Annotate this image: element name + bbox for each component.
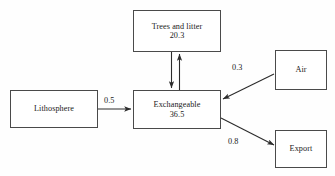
node-exchangeable: Exchangeable 36.5	[133, 90, 221, 129]
node-lithosphere-label: Lithosphere	[34, 104, 74, 113]
node-trees-label: Trees and litter	[152, 22, 203, 31]
edge-label-air-to-exchangeable: 0.3	[232, 63, 242, 72]
flow-diagram: Trees and litter 20.3 Lithosphere Exchan…	[0, 0, 335, 176]
node-export-label: Export	[290, 144, 313, 153]
arrow-air-to-exchangeable	[223, 74, 274, 99]
node-air-label: Air	[295, 65, 306, 74]
node-exchangeable-label: Exchangeable	[154, 100, 201, 109]
edge-label-exchangeable-to-export: 0.8	[228, 137, 238, 146]
node-air: Air	[275, 50, 327, 90]
node-lithosphere: Lithosphere	[10, 90, 98, 128]
edge-label-lithosphere-to-exchangeable: 0.5	[104, 96, 114, 105]
node-trees-value: 20.3	[170, 31, 185, 40]
node-export: Export	[275, 130, 327, 168]
node-exchangeable-value: 36.5	[170, 110, 185, 119]
node-trees-and-litter: Trees and litter 20.3	[133, 10, 221, 52]
